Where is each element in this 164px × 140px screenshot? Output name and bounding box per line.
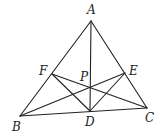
segment-AC — [91, 21, 147, 108]
label-E: E — [128, 64, 138, 78]
segment-DE — [90, 73, 125, 111]
label-B: B — [11, 120, 21, 134]
label-P: P — [79, 70, 89, 84]
labels-group: A B C D E F P — [11, 3, 154, 134]
segment-CF — [52, 74, 147, 108]
label-D: D — [84, 115, 95, 129]
label-F: F — [38, 64, 48, 78]
label-A: A — [86, 3, 96, 17]
triangle-diagram: A B C D E F P — [0, 0, 164, 140]
segment-AD — [90, 21, 91, 111]
label-C: C — [145, 111, 154, 125]
segment-BC — [20, 108, 147, 116]
